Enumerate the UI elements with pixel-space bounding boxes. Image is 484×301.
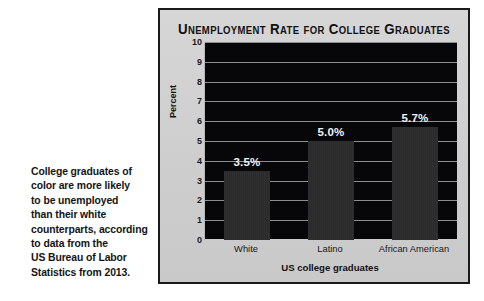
y-tick-label: 10 xyxy=(184,37,202,47)
y-tick-label: 1 xyxy=(184,215,202,225)
gridline xyxy=(205,42,457,43)
chart-panel: Unemployment Rate for College Graduates … xyxy=(158,8,470,284)
bar xyxy=(308,141,354,240)
bar-value-label: 3.5% xyxy=(233,156,260,168)
y-axis-tick-labels: 012345678910 xyxy=(180,42,202,240)
chart-title: Unemployment Rate for College Graduates xyxy=(168,21,461,37)
x-axis-title: US college graduates xyxy=(204,262,456,273)
bar xyxy=(392,127,438,240)
y-tick-label: 3 xyxy=(184,176,202,186)
y-axis-title: Percent xyxy=(168,104,178,118)
y-tick-label: 6 xyxy=(184,116,202,126)
x-tick-label: African American xyxy=(379,244,449,254)
y-tick-label: 7 xyxy=(184,96,202,106)
y-tick-label: 2 xyxy=(184,195,202,205)
plot-area: 3.5%5.0%5.7% xyxy=(204,42,457,240)
bar-value-label: 5.0% xyxy=(317,126,344,138)
y-tick-label: 4 xyxy=(184,156,202,166)
x-axis-tick-labels: WhiteLatinoAfrican American xyxy=(204,244,456,258)
x-tick-label: White xyxy=(234,244,258,254)
gridline xyxy=(205,82,457,83)
y-tick-label: 9 xyxy=(184,57,202,67)
y-tick-label: 0 xyxy=(184,235,202,245)
figure-caption: College graduates of color are more like… xyxy=(31,165,159,280)
bar xyxy=(224,171,270,240)
y-tick-label: 5 xyxy=(184,136,202,146)
gridline xyxy=(205,101,457,102)
y-tick-label: 8 xyxy=(184,77,202,87)
x-tick-label: Latino xyxy=(317,244,342,254)
gridline xyxy=(205,62,457,63)
bar-value-label: 5.7% xyxy=(401,112,428,124)
